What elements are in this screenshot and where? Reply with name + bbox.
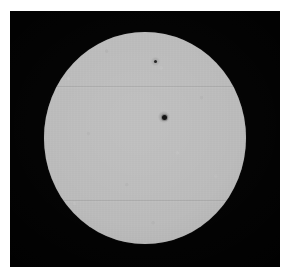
emulsion-grain-overlay (44, 32, 246, 244)
solar-disk (44, 32, 246, 244)
sunspot-main-penumbra (158, 111, 170, 123)
limb-darkening-overlay (44, 32, 246, 244)
sunspot-upper (154, 60, 157, 63)
sunspot-upper-penumbra (151, 57, 160, 66)
sunspot-main (162, 115, 167, 120)
solar-photograph-figure: Grayscale photograph of the solar disk s… (0, 0, 291, 278)
photographic-plate-background (10, 11, 280, 267)
scan-line-lower (44, 200, 246, 201)
scan-line-upper (44, 86, 246, 87)
